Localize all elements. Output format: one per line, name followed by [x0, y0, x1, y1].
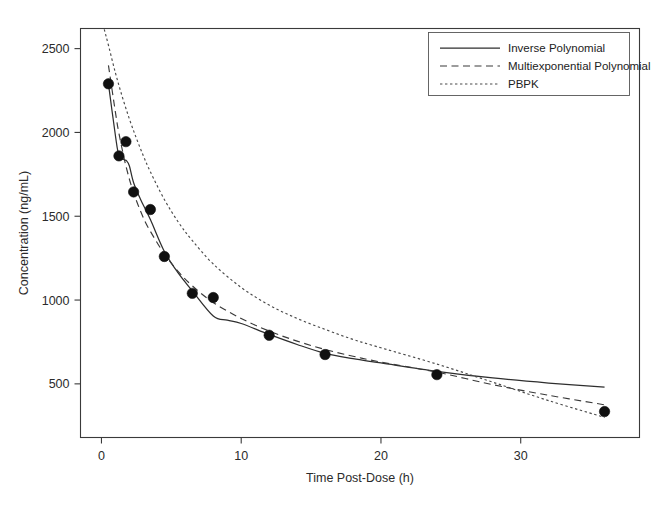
data-point	[432, 369, 442, 379]
data-point	[103, 79, 113, 89]
data-point	[264, 330, 274, 340]
legend-label: Multiexponential Polynomial	[508, 60, 651, 72]
legend-label: Inverse Polynomial	[508, 42, 605, 54]
x-tick-label: 20	[374, 449, 388, 463]
y-tick-label: 500	[49, 377, 70, 391]
data-point	[159, 251, 169, 261]
data-point	[121, 136, 131, 146]
y-tick-label: 2500	[42, 42, 70, 56]
data-point	[145, 204, 155, 214]
x-axis-title: Time Post-Dose (h)	[306, 471, 414, 485]
chart-figure: 5001000150020002500 0102030 Time Post-Do…	[0, 0, 663, 510]
chart-legend: Inverse PolynomialMultiexponential Polyn…	[429, 33, 651, 96]
data-point	[599, 406, 609, 416]
y-tick-label: 2000	[42, 126, 70, 140]
x-tick-label: 10	[234, 449, 248, 463]
data-point	[187, 288, 197, 298]
legend-label: PBPK	[508, 78, 539, 90]
data-point	[208, 292, 218, 302]
x-tick-label: 30	[514, 449, 528, 463]
concentration-time-chart: 5001000150020002500 0102030 Time Post-Do…	[0, 0, 663, 510]
y-tick-label: 1500	[42, 210, 70, 224]
y-tick-label: 1000	[42, 294, 70, 308]
data-point	[128, 187, 138, 197]
x-tick-label: 0	[98, 449, 105, 463]
data-point	[114, 151, 124, 161]
data-point	[320, 349, 330, 359]
y-axis-title: Concentration (ng/mL)	[17, 171, 31, 295]
